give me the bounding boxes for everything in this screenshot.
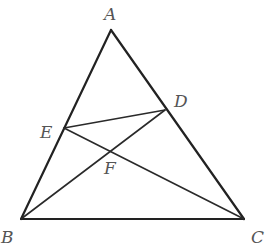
geometry-diagram: A B C D E F bbox=[0, 0, 270, 248]
segment-ac bbox=[111, 30, 244, 219]
label-e: E bbox=[39, 122, 53, 142]
segment-ed bbox=[64, 110, 165, 128]
segment-ec bbox=[64, 128, 244, 219]
label-a: A bbox=[102, 4, 116, 24]
label-b: B bbox=[0, 227, 14, 247]
label-c: C bbox=[251, 227, 264, 247]
segment-ab bbox=[21, 30, 111, 219]
triangle-figure: A B C D E F bbox=[0, 0, 270, 248]
label-f: F bbox=[103, 158, 117, 178]
label-d: D bbox=[173, 91, 188, 111]
